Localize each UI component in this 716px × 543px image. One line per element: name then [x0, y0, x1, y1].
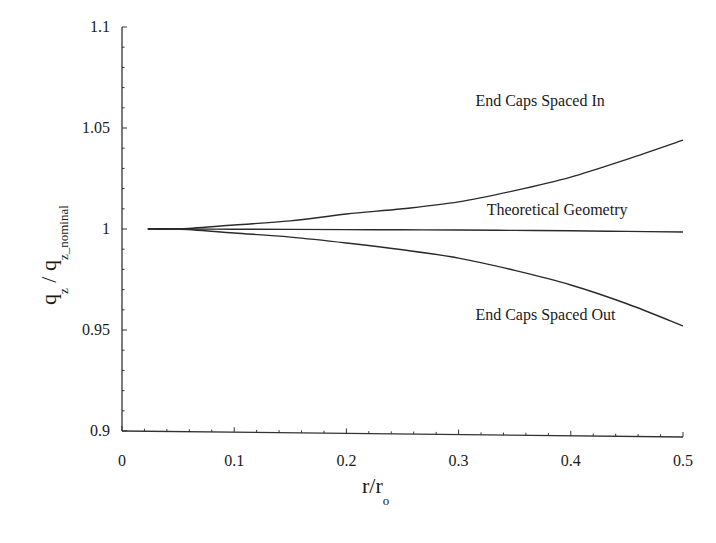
ticks: 00.10.20.30.40.50.90.9511.051.1 — [82, 18, 693, 469]
y-tick-label: 1.05 — [82, 119, 110, 136]
series-theoretical-geometry — [148, 229, 683, 232]
x-tick-label: 0.4 — [561, 452, 581, 469]
label-theoretical-geometry: Theoretical Geometry — [487, 201, 628, 219]
x-tick-label: 0.1 — [224, 452, 244, 469]
label-end-caps-spaced-in: End Caps Spaced In — [475, 92, 604, 110]
x-axis-title: r/ro — [362, 473, 389, 508]
y-axis-title: qz / qz_nominal — [36, 205, 71, 305]
x-axis-line — [122, 431, 683, 437]
x-tick-label: 0.3 — [449, 452, 469, 469]
axes — [122, 27, 683, 437]
series-lines — [148, 140, 683, 326]
x-tick-label: 0.2 — [336, 452, 356, 469]
y-tick-label: 1.1 — [90, 18, 110, 35]
y-tick-label: 0.9 — [90, 422, 110, 439]
chart: 00.10.20.30.40.50.90.9511.051.1 End Caps… — [0, 0, 716, 543]
x-tick-label: 0 — [118, 452, 126, 469]
y-tick-label: 0.95 — [82, 321, 110, 338]
label-end-caps-spaced-out: End Caps Spaced Out — [475, 306, 616, 324]
x-tick-label: 0.5 — [673, 452, 693, 469]
y-tick-label: 1 — [102, 220, 110, 237]
chart-canvas: 00.10.20.30.40.50.90.9511.051.1 End Caps… — [0, 0, 716, 543]
annotations: End Caps Spaced InTheoretical GeometryEn… — [475, 92, 627, 324]
